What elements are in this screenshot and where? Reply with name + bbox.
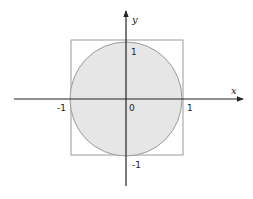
x-axis-label: x (231, 85, 237, 96)
tick-label-origin: 0 (129, 103, 135, 113)
tick-label-x-neg-1: -1 (57, 103, 66, 113)
y-axis-label: y (131, 14, 138, 25)
tick-label-y-neg-1: -1 (132, 160, 141, 170)
tick-label-y-pos-1: 1 (131, 47, 137, 57)
unit-circle-diagram: x y -1 0 1 1 -1 (0, 0, 253, 199)
tick-label-x-pos-1: 1 (187, 103, 193, 113)
